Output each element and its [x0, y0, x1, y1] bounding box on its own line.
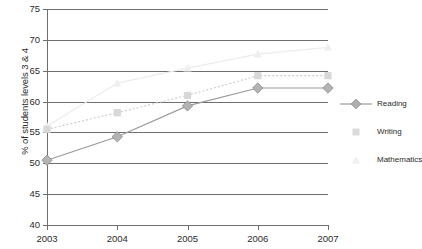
- data-point-writing-2005: [184, 92, 191, 99]
- data-point-writing-2006: [254, 72, 261, 79]
- data-point-writing-2007: [324, 72, 331, 79]
- y-tick-label-40: 40: [18, 220, 40, 230]
- y-tick-label-60: 60: [18, 97, 40, 107]
- y-tick-label-65: 65: [18, 66, 40, 76]
- data-point-writing-2003: [43, 126, 50, 133]
- y-tick-label-70: 70: [18, 35, 40, 45]
- legend-marker-reading: [338, 98, 374, 110]
- chart-legend: Reading Writing Mathematics: [352, 99, 416, 183]
- series-mathematics: [43, 43, 332, 130]
- y-tick-label-45: 45: [18, 189, 40, 199]
- y-tick-label-55: 55: [18, 127, 40, 137]
- legend-marker-writing: [338, 126, 374, 138]
- series-line-mathematics: [47, 47, 328, 126]
- legend-marker-mathematics: [338, 154, 374, 166]
- x-tick-label-2006: 2006: [236, 234, 280, 244]
- data-point-reading-2007: [323, 83, 333, 93]
- data-point-writing-2004: [114, 109, 121, 116]
- y-tick-label-50: 50: [18, 158, 40, 168]
- x-tick-label-2004: 2004: [95, 234, 139, 244]
- x-tick-label-2003: 2003: [25, 234, 69, 244]
- data-point-reading-2006: [253, 83, 263, 93]
- y-tick-label-75: 75: [18, 4, 40, 14]
- legend-label-writing: Writing: [377, 127, 402, 137]
- legend-item-writing[interactable]: Writing: [352, 127, 416, 155]
- legend-item-mathematics[interactable]: Mathematics: [352, 155, 416, 183]
- x-tick-label-2007: 2007: [306, 234, 350, 244]
- data-point-mathematics-2007: [324, 43, 332, 51]
- y-axis-tick-labels: 7570656055504540: [18, 0, 40, 249]
- x-tick-label-2005: 2005: [166, 234, 210, 244]
- legend-label-reading: Reading: [377, 99, 407, 109]
- data-point-reading-2004: [112, 132, 123, 142]
- legend-label-mathematics: Mathematics: [377, 155, 422, 165]
- legend-item-reading[interactable]: Reading: [352, 99, 416, 127]
